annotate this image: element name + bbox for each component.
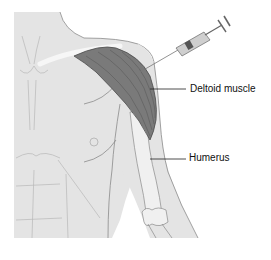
injection-diagram: Deltoid muscle Humerus <box>0 0 271 260</box>
torso-illustration <box>14 12 198 238</box>
humerus-label: Humerus <box>189 153 230 163</box>
deltoid-label: Deltoid muscle <box>190 84 256 94</box>
